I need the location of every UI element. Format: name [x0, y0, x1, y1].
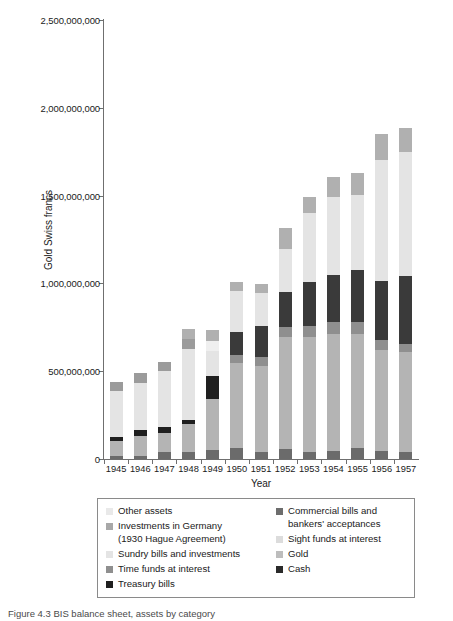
bar-segment	[230, 282, 243, 292]
legend-item[interactable]: Other assets	[106, 505, 266, 518]
legend-item[interactable]: Investments in Germany(1930 Hague Agreem…	[106, 520, 266, 545]
x-axis-line	[103, 459, 419, 460]
y-tick-label: 2,000,000,000	[41, 102, 100, 113]
legend-swatch-icon	[276, 508, 283, 515]
bar-segment	[110, 382, 123, 392]
legend-item[interactable]: Sundry bills and investments	[106, 548, 266, 561]
bar-segment	[399, 276, 412, 344]
y-axis-title: Gold Swiss francs	[43, 190, 54, 270]
legend-swatch-icon	[276, 566, 283, 573]
bar-stack[interactable]	[206, 330, 219, 459]
bar-segment	[303, 197, 316, 213]
bar-segment	[327, 177, 340, 196]
bar-segment	[182, 349, 195, 419]
bar-stack[interactable]	[351, 173, 364, 459]
bar-stack[interactable]	[182, 329, 195, 459]
bar-segment	[303, 326, 316, 337]
legend-label: Gold	[288, 548, 308, 561]
legend-swatch-icon	[106, 581, 113, 588]
bar-segment	[182, 339, 195, 350]
bar-segment	[279, 337, 292, 449]
bar-stack[interactable]	[303, 197, 316, 459]
y-tick-label: 1,500,000,000	[41, 190, 100, 201]
bar-segment	[230, 448, 243, 459]
bar-segment	[158, 452, 171, 459]
bar-stack[interactable]	[110, 382, 123, 459]
x-axis-title: Year	[104, 478, 418, 489]
bar-segment	[110, 441, 123, 455]
legend-label: Time funds at interest	[118, 563, 210, 576]
bar-segment	[375, 451, 388, 459]
bar-stack[interactable]	[279, 228, 292, 459]
legend-label: Treasury bills	[118, 578, 175, 591]
legend-item[interactable]: Sight funds at interest	[276, 533, 411, 546]
bar-segment	[206, 376, 219, 400]
legend-swatch-icon	[106, 523, 113, 530]
bar-segment	[351, 270, 364, 322]
bar-segment	[158, 371, 171, 427]
bar-segment	[351, 195, 364, 271]
bar-segment	[399, 152, 412, 276]
y-tick-label: 1,000,000,000	[41, 278, 100, 289]
bar-stack[interactable]	[327, 177, 340, 459]
figure-caption: Figure 4.3 BIS balance sheet, assets by …	[8, 608, 448, 619]
x-tick-label: 1954	[323, 464, 344, 474]
bar-segment	[375, 340, 388, 350]
bar-segment	[399, 344, 412, 352]
legend-item[interactable]: Time funds at interest	[106, 563, 266, 576]
bar-stack[interactable]	[230, 282, 243, 459]
bar-segment	[375, 134, 388, 159]
legend-swatch-icon	[106, 566, 113, 573]
x-tick-label: 1948	[178, 464, 199, 474]
bar-segment	[351, 173, 364, 195]
bar-segment	[206, 330, 219, 341]
x-tick-label: 1953	[299, 464, 320, 474]
y-tick-label: 2,500,000,000	[41, 15, 100, 26]
legend-item[interactable]: Gold	[276, 548, 411, 561]
bar-stack[interactable]	[134, 373, 147, 459]
legend-item[interactable]: Treasury bills	[106, 578, 266, 591]
bar-segment	[230, 363, 243, 447]
bar-segment	[206, 450, 219, 459]
x-tick-label: 1956	[371, 464, 392, 474]
bar-segment	[303, 282, 316, 327]
legend-swatch-icon	[276, 551, 283, 558]
bar-stack[interactable]	[375, 134, 388, 459]
legend-column-right: Commercial bills andbankers' acceptances…	[276, 505, 411, 578]
bar-segment	[255, 357, 268, 366]
bar-segment	[399, 352, 412, 452]
legend-item[interactable]: Commercial bills andbankers' acceptances	[276, 505, 411, 530]
bar-segment	[206, 341, 219, 352]
bar-stack[interactable]	[158, 362, 171, 459]
bar-segment	[399, 128, 412, 152]
bar-stack[interactable]	[399, 128, 412, 459]
legend-item[interactable]: Cash	[276, 563, 411, 576]
legend-swatch-icon	[106, 551, 113, 558]
bar-segment	[327, 451, 340, 459]
x-tick-label: 1950	[227, 464, 248, 474]
bar-stack[interactable]	[255, 284, 268, 459]
bar-segment	[255, 284, 268, 293]
x-tick-label: 1947	[154, 464, 175, 474]
bar-segment	[206, 351, 219, 376]
legend-label: Sight funds at interest	[288, 533, 381, 546]
plot-area	[104, 20, 418, 459]
bar-segment	[303, 452, 316, 459]
bar-segment	[230, 355, 243, 364]
bar-segment	[182, 452, 195, 459]
x-tick-label: 1945	[106, 464, 127, 474]
x-tick-label: 1955	[347, 464, 368, 474]
x-tick-label: 1946	[130, 464, 151, 474]
bar-segment	[303, 337, 316, 452]
bar-segment	[351, 448, 364, 459]
bar-segment	[134, 383, 147, 430]
bar-segment	[279, 327, 292, 337]
bar-segment	[134, 436, 147, 455]
bar-segment	[255, 452, 268, 459]
legend-swatch-icon	[106, 508, 113, 515]
bar-segment	[327, 334, 340, 451]
bar-segment	[255, 293, 268, 326]
bar-segment	[327, 322, 340, 334]
legend-label: Other assets	[118, 505, 172, 518]
legend-label: Investments in Germany(1930 Hague Agreem…	[118, 520, 226, 545]
